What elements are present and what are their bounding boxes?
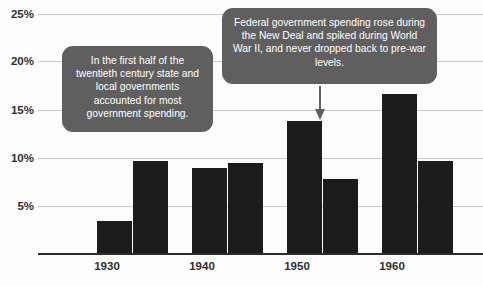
- bar-1960-federal: [382, 94, 417, 253]
- x-tick-label-1950: 1950: [262, 261, 332, 273]
- bar-1930-federal: [97, 221, 132, 253]
- bar-1960-state-local: [418, 161, 453, 253]
- x-tick-label-1960: 1960: [357, 261, 427, 273]
- annotation-callout-state-local: In the first half of the twentieth centu…: [62, 46, 213, 132]
- bar-1940-federal: [192, 168, 227, 253]
- bar-chart: 25% 20% 15% 10% 5% 1930 1940 1950 1960 I…: [0, 0, 483, 286]
- down-arrow-icon: [313, 86, 327, 120]
- bar-1930-state-local: [133, 161, 168, 253]
- bar-1950-state-local: [323, 179, 358, 253]
- x-axis: 1930 1940 1950 1960: [0, 261, 483, 281]
- annotation-callout-federal: Federal government spending rose during …: [222, 8, 437, 84]
- x-tick-label-1930: 1930: [72, 261, 142, 273]
- bar-1950-federal: [287, 121, 322, 253]
- bar-1940-state-local: [228, 163, 263, 253]
- x-tick-label-1940: 1940: [167, 261, 237, 273]
